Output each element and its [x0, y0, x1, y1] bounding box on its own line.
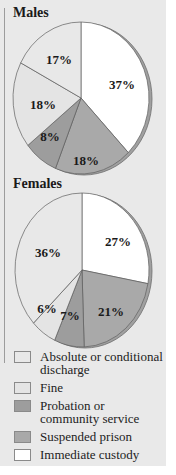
pie-slice-label: 21% [98, 304, 124, 319]
pie-slice-label: 7% [60, 308, 80, 323]
pie-slice-label: 18% [73, 153, 99, 168]
legend-swatch-suspended [14, 431, 31, 443]
legend-label: Suspended prison [40, 430, 132, 443]
legend-item-suspended: Suspended prison [14, 430, 164, 443]
legend: Absolute or conditional discharge Fine P… [14, 350, 164, 466]
legend-label: Probation or community service [40, 399, 155, 425]
legend-item-custody: Immediate custody [14, 448, 164, 461]
legend-label: Absolute or conditional discharge [40, 350, 164, 376]
pie-slice-label: 18% [30, 97, 56, 112]
legend-label: Fine [40, 381, 63, 394]
legend-item-fine: Fine [14, 381, 164, 394]
legend-label: Immediate custody [40, 448, 139, 461]
pie-slice-label: 36% [35, 245, 61, 260]
legend-item-probation: Probation or community service [14, 399, 164, 425]
legend-item-discharge: Absolute or conditional discharge [14, 350, 164, 376]
males-pie-chart: 37%18%8%18%17% [0, 0, 166, 185]
legend-swatch-probation [14, 400, 31, 412]
legend-swatch-discharge [14, 351, 31, 363]
pie-slice-label: 8% [40, 129, 60, 144]
pie-slice-label: 27% [105, 234, 131, 249]
females-pie-chart: 27%21%7%6%36% [0, 172, 166, 352]
pie-slice-label: 6% [37, 301, 57, 316]
pie-slice-label: 37% [109, 77, 135, 92]
chart-panel: Males 37%18%8%18%17% Females 27%21%7%6%3… [0, 0, 166, 466]
legend-swatch-custody [14, 449, 31, 461]
pie-slice-label: 17% [46, 52, 72, 67]
legend-swatch-fine [14, 382, 31, 394]
